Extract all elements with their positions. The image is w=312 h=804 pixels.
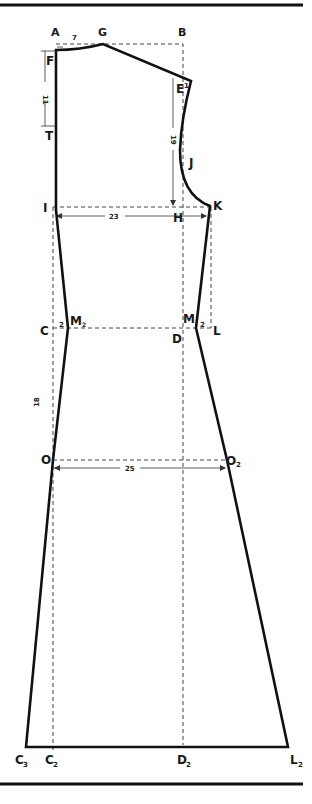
construction-guides bbox=[53, 44, 227, 750]
label-C: C bbox=[40, 324, 49, 338]
label-L2-sub: 2 bbox=[298, 761, 303, 769]
dim-FT: 11 bbox=[41, 95, 49, 105]
dim-AG: 7 bbox=[72, 34, 77, 42]
label-H: H bbox=[173, 211, 183, 225]
label-L2: L bbox=[290, 753, 298, 767]
dim-IK: 23 bbox=[109, 213, 119, 221]
pattern-outline bbox=[26, 44, 288, 747]
label-M2: M bbox=[70, 314, 82, 328]
dress-pattern-diagram: A G B F E T J I H K C M 2 M D L O O 2 C … bbox=[0, 0, 312, 804]
label-O2: O bbox=[226, 454, 236, 468]
label-B: B bbox=[178, 26, 186, 39]
dim-CO: 18 bbox=[33, 397, 41, 407]
label-C3-sub: 3 bbox=[23, 761, 28, 769]
label-J: J bbox=[188, 156, 193, 170]
label-F: F bbox=[46, 54, 54, 68]
label-K: K bbox=[213, 199, 223, 213]
label-L: L bbox=[213, 324, 221, 338]
dim-E-offset: 1 bbox=[184, 82, 189, 90]
label-E: E bbox=[176, 82, 184, 96]
label-I: I bbox=[43, 201, 47, 215]
label-T: T bbox=[45, 129, 54, 143]
label-D: D bbox=[172, 332, 182, 346]
label-G: G bbox=[98, 26, 107, 39]
label-O: O bbox=[41, 453, 51, 467]
dim-EH: 19 bbox=[169, 135, 177, 145]
dim-ML: 2 bbox=[200, 321, 205, 329]
label-M: M bbox=[183, 312, 195, 326]
dim-OO2: 25 bbox=[125, 465, 135, 473]
label-O2-sub: 2 bbox=[236, 461, 241, 469]
label-C2-sub: 2 bbox=[53, 761, 58, 769]
dim-CM2: 2 bbox=[59, 321, 64, 329]
dimension-lines bbox=[41, 47, 226, 471]
label-D2-sub: 2 bbox=[186, 761, 191, 769]
point-labels: A G B F E T J I H K C M 2 M D L O O 2 C … bbox=[15, 26, 303, 769]
label-M2-sub: 2 bbox=[82, 321, 86, 328]
label-A: A bbox=[51, 26, 60, 39]
